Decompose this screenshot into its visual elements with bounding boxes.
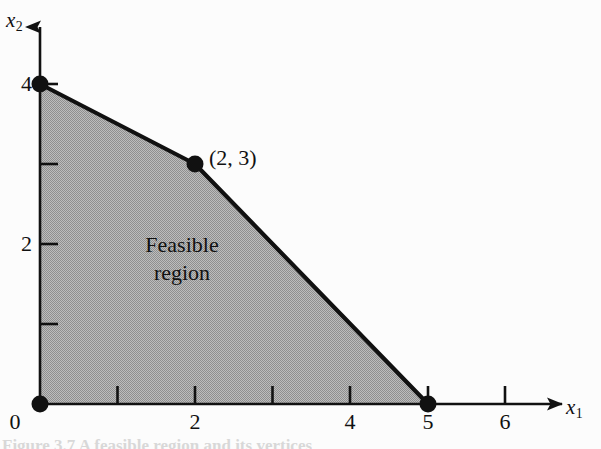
y-tick-label-4: 4 bbox=[8, 73, 32, 95]
x-tick-label-2: 2 bbox=[182, 411, 208, 433]
feasible-region-figure: x2 x1 4 2 0 2 4 5 6 Feasible region (2, … bbox=[0, 0, 601, 449]
vertex-coordinate-annotation: (2, 3) bbox=[209, 147, 257, 169]
y-tick-label-2: 2 bbox=[8, 233, 32, 255]
x-tick-label-4: 4 bbox=[337, 411, 363, 433]
plot-canvas bbox=[0, 0, 601, 449]
vertex-point-2-3 bbox=[187, 156, 204, 173]
x-axis-label-base: x bbox=[566, 395, 575, 419]
vertex-point-0-4 bbox=[32, 76, 49, 93]
x-tick-label-6: 6 bbox=[492, 411, 518, 433]
y-axis-label-base: x bbox=[6, 8, 15, 32]
figure-caption: Figure 3.7 A feasible region and its ver… bbox=[2, 437, 312, 449]
vertex-point-origin bbox=[32, 396, 49, 413]
y-axis-label: x2 bbox=[6, 10, 23, 34]
x-tick-label-0: 0 bbox=[2, 411, 28, 433]
x-axis-label: x1 bbox=[566, 397, 583, 421]
y-axis-label-subscript: 2 bbox=[15, 19, 22, 34]
x-axis-label-subscript: 1 bbox=[575, 406, 582, 421]
x-tick-label-5: 5 bbox=[415, 411, 441, 433]
feasible-region-label: Feasible region bbox=[102, 231, 262, 287]
